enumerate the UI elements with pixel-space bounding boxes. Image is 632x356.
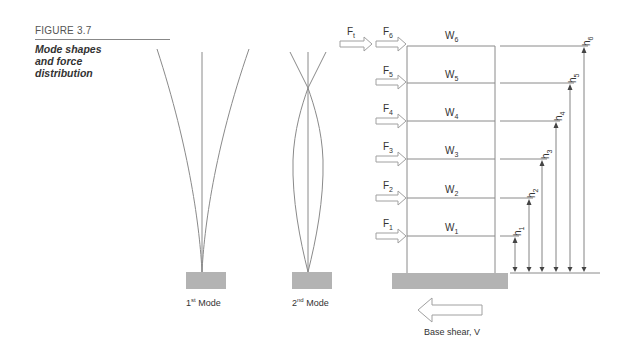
first-mode-label: 1st Mode xyxy=(186,297,221,308)
height-label-4: h4 xyxy=(553,111,566,121)
height-dimension-4 xyxy=(554,122,559,272)
height-label-5: h5 xyxy=(567,73,580,83)
height-dimension-5 xyxy=(568,84,573,272)
force-arrow-2 xyxy=(376,191,406,205)
weight-label-1: W1 xyxy=(445,222,458,235)
height-labels: h1 h2 h3 h4 h5 h6 xyxy=(512,36,594,236)
force-arrow-6 xyxy=(376,37,406,51)
base-shear-label: Base shear, V xyxy=(424,327,480,337)
height-dimension-6 xyxy=(582,47,587,272)
height-dimension-1 xyxy=(513,237,518,272)
force-label-2: F2 xyxy=(383,180,393,193)
first-mode-shape: 1st Mode xyxy=(157,49,249,308)
base-shear-arrow xyxy=(418,298,482,322)
second-mode-label: 2nd Mode xyxy=(292,297,329,308)
height-dimension-3 xyxy=(540,160,545,272)
frame-foundation xyxy=(392,273,508,289)
force-label-6: F6 xyxy=(383,26,393,39)
force-arrow-4 xyxy=(376,114,406,128)
second-mode-base xyxy=(292,272,332,289)
weight-label-5: W5 xyxy=(445,69,458,82)
first-mode-base xyxy=(186,272,226,289)
diagram-canvas: 1st Mode 2nd Mode Ft F6 F5 F4 F3 xyxy=(0,0,632,356)
force-label-4: F4 xyxy=(383,103,393,116)
force-label-5: F5 xyxy=(383,65,393,78)
second-mode-shape: 2nd Mode xyxy=(290,52,332,308)
force-label-1: F1 xyxy=(383,218,393,231)
height-label-6: h6 xyxy=(581,36,594,46)
height-dimension-2 xyxy=(527,199,532,272)
weight-label-6: W6 xyxy=(445,30,458,43)
second-mode-curve-left xyxy=(293,52,326,272)
second-mode-curve-right xyxy=(290,52,323,272)
force-arrow-top xyxy=(340,37,372,51)
force-arrow-1 xyxy=(376,229,406,243)
lateral-force-arrows xyxy=(340,37,406,243)
height-label-3: h3 xyxy=(540,149,553,159)
weight-label-2: W2 xyxy=(445,184,458,197)
height-label-1: h1 xyxy=(512,226,525,236)
first-mode-curve-left xyxy=(157,49,202,272)
force-arrow-3 xyxy=(376,152,406,166)
first-mode-curve-right xyxy=(202,49,249,272)
force-label-3: F3 xyxy=(383,141,393,154)
weight-labels: W6 W5 W4 W3 W2 W1 xyxy=(445,30,458,235)
weight-label-3: W3 xyxy=(445,145,458,158)
weight-label-4: W4 xyxy=(445,107,458,120)
building-frame xyxy=(392,46,508,289)
force-label-top: Ft xyxy=(347,26,355,39)
height-label-2: h2 xyxy=(526,188,539,198)
